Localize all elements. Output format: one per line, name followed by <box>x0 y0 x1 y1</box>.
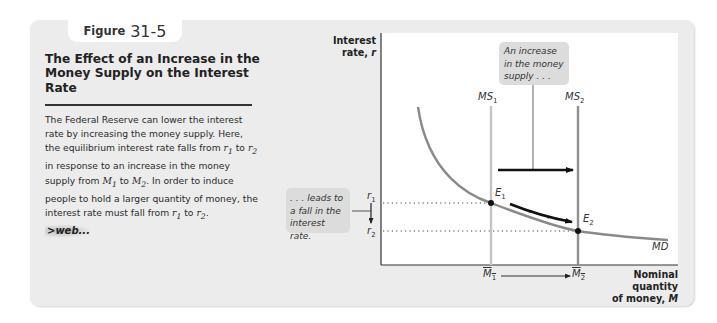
callout-interest-fall: . . . leads to a fall in the interest ra… <box>286 188 350 233</box>
ms1-label-text: MS <box>478 91 493 102</box>
e1-point <box>488 200 494 206</box>
ms1-label: MS1 <box>478 91 497 105</box>
m-label-text: M <box>483 268 492 279</box>
subscript: 2 <box>580 97 584 105</box>
ms2-label-text: MS <box>565 91 580 102</box>
e2-label: E2 <box>583 213 594 227</box>
e1-label: E1 <box>495 187 506 201</box>
md-curve <box>418 107 668 240</box>
subscript: 1 <box>501 193 505 201</box>
e2-point <box>575 228 581 234</box>
md-label: MD <box>652 241 668 252</box>
subscript: 2 <box>581 274 585 282</box>
subscript: 1 <box>371 196 375 204</box>
r2-tick-label: r2 <box>367 225 376 239</box>
chart-svg <box>0 0 717 323</box>
subscript: 1 <box>493 97 497 105</box>
subscript: 2 <box>371 231 375 239</box>
callout-money-supply-increase: An increase in the money supply . . . <box>499 42 569 85</box>
ms2-label: MS2 <box>565 91 584 105</box>
subscript: 1 <box>492 274 496 282</box>
subscript: 2 <box>589 219 593 227</box>
r1-tick-label: r1 <box>367 190 376 204</box>
m1-tick-label: M1 <box>483 268 496 282</box>
m2-tick-label: M2 <box>572 268 585 282</box>
m-label-text: M <box>572 268 581 279</box>
